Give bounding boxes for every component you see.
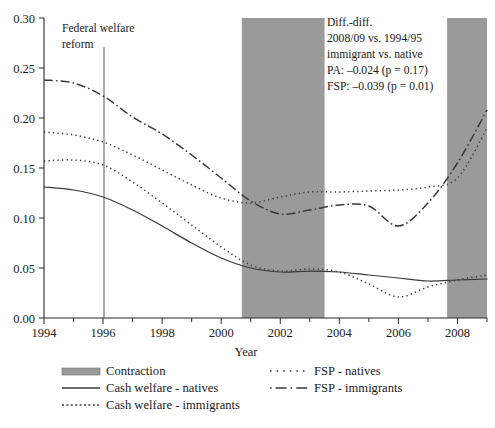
- legend-swatch-contraction: [62, 368, 100, 375]
- y-tick-label-3: 0.15: [13, 162, 35, 176]
- x-tick-label-4: 2002: [268, 326, 293, 340]
- chart-figure: 0.000.050.100.150.200.250.30 19941996199…: [0, 0, 495, 428]
- annot-line-4: PA: –0.024 (p = 0.17): [327, 64, 428, 77]
- x-tick-label-7: 2008: [445, 326, 470, 340]
- y-tick-label-6: 0.30: [13, 12, 35, 26]
- x-tick-label-0: 1994: [32, 326, 58, 340]
- y-tick-label-0: 0.00: [13, 312, 35, 326]
- legend-label-contraction: Contraction: [106, 364, 166, 378]
- x-tick-label-6: 2006: [386, 326, 411, 340]
- legend-label-cash-welfare-natives: Cash welfare - natives: [106, 381, 218, 395]
- x-tick-label-3: 2000: [209, 326, 234, 340]
- annot-line-5: FSP: –0.039 (p = 0.01): [327, 80, 434, 93]
- reform-label-line1: Federal welfare: [62, 22, 134, 35]
- annot-line-3: immigrant vs. native: [327, 48, 423, 61]
- x-tick-label-5: 2004: [327, 326, 353, 340]
- legend-label-fsp-immigrants: FSP - immigrants: [314, 381, 403, 395]
- legend-label-cash-welfare-immigrants: Cash welfare - immigrants: [106, 398, 240, 412]
- x-tick-label-1: 1996: [91, 326, 116, 340]
- y-tick-label-4: 0.20: [13, 112, 35, 126]
- annot-line-2: 2008/09 vs. 1994/95: [327, 32, 422, 45]
- welfare-participation-line-chart: 0.000.050.100.150.200.250.30 19941996199…: [0, 0, 495, 428]
- x-tick-label-2: 1998: [150, 326, 175, 340]
- x-axis-title: Year: [234, 345, 258, 359]
- y-tick-label-1: 0.05: [13, 262, 35, 276]
- annot-line-1: Diff.-diff.: [327, 16, 372, 29]
- y-tick-label-5: 0.25: [13, 62, 35, 76]
- legend-label-fsp-natives: FSP - natives: [314, 364, 381, 378]
- contraction-region-1: [242, 18, 325, 318]
- y-tick-label-2: 0.10: [13, 212, 35, 226]
- contraction-region-2: [447, 18, 487, 318]
- reform-label-line2: reform: [62, 38, 94, 51]
